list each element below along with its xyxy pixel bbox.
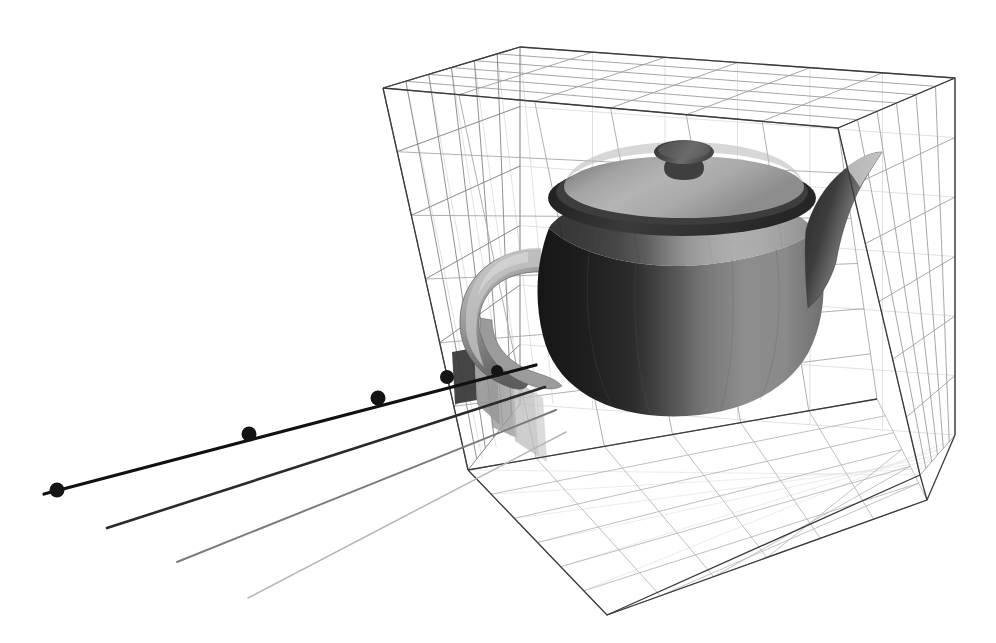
voxel-grid-interior-slices — [468, 442, 949, 591]
sample-point — [242, 427, 257, 442]
scene-root: Ray traversal through a uniform voxel gr… — [0, 0, 996, 643]
voxel-grid-top-face — [383, 47, 955, 128]
voxel-grid-front-right-face — [838, 78, 955, 475]
ray-voxel-teapot-illustration — [0, 0, 996, 643]
ray-1 — [44, 365, 536, 494]
ray-2 — [107, 387, 545, 528]
sample-point — [440, 370, 454, 384]
sample-point — [371, 391, 386, 406]
ray-sample-points — [50, 365, 504, 498]
teapot-spout — [805, 152, 882, 308]
sample-point — [491, 365, 503, 377]
sample-point — [50, 483, 65, 498]
